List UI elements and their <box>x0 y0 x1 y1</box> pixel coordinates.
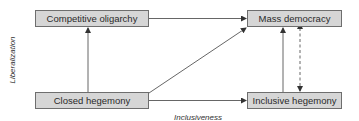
node-label: Mass democracy <box>259 13 331 24</box>
node-closed-hegemony: Closed hegemony <box>35 92 149 109</box>
y-axis-label: Liberalization <box>8 36 17 83</box>
node-label: Inclusive hegemony <box>253 95 337 106</box>
x-axis-label: Inclusiveness <box>174 113 222 121</box>
node-label: Competitive oligarchy <box>47 13 138 24</box>
node-inclusive-hegemony: Inclusive hegemony <box>247 92 342 109</box>
node-competitive-oligarchy: Competitive oligarchy <box>35 10 149 27</box>
regime-diagram: Competitive oligarchy Mass democracy Clo… <box>0 0 359 121</box>
node-label: Closed hegemony <box>54 95 131 106</box>
node-mass-democracy: Mass democracy <box>247 10 342 27</box>
edge-closed-hegemony-to-mass-democracy <box>149 28 246 93</box>
